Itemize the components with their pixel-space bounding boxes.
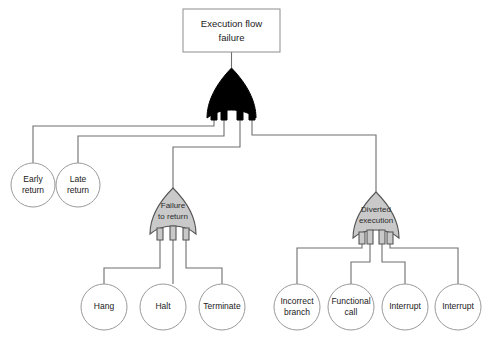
top-event-node[interactable]: Execution flow failure <box>183 9 280 52</box>
diverted-execution-label-line1: Diverted <box>361 205 391 214</box>
top-event-label-line1: Execution flow <box>201 18 262 29</box>
root-or-gate-shape <box>207 68 256 118</box>
diverted-gate-stub-4 <box>387 232 393 244</box>
root-gate-stub-4 <box>249 112 255 120</box>
terminate-label-line1: Terminate <box>203 301 241 311</box>
wire-failure-to-terminate <box>186 238 222 284</box>
failure-gate-stub-2 <box>170 226 176 240</box>
basic-event-interrupt-1[interactable]: Interrupt <box>382 284 428 330</box>
diverted-gate-stub-3 <box>379 230 385 244</box>
basic-event-halt[interactable]: Halt <box>140 284 186 330</box>
basic-event-terminate[interactable]: Terminate <box>199 284 245 330</box>
wire-diverted-to-interrupt-2 <box>390 242 458 284</box>
failure-to-return-gate[interactable]: Failure to return <box>150 188 196 240</box>
basic-event-hang[interactable]: Hang <box>81 284 127 330</box>
fault-tree-diagram: Execution flow failure Early return Late… <box>0 0 490 340</box>
late-return-label-line2: return <box>67 185 89 195</box>
top-event-label-line2: failure <box>219 32 245 43</box>
failure-gate-stub-1 <box>157 228 163 240</box>
failure-to-return-label-line1: Failure <box>161 201 186 210</box>
functional-call-label-line2: call <box>345 307 358 317</box>
incorrect-branch-label-line2: branch <box>284 307 310 317</box>
diverted-execution-label-line2: execution <box>359 216 393 225</box>
functional-call-label-line1: Functional <box>331 296 370 306</box>
diverted-execution-gate[interactable]: Diverted execution <box>353 192 399 244</box>
root-gate-stub-2 <box>221 110 227 120</box>
diverted-gate-stub-2 <box>367 230 373 244</box>
diverted-gate-stub-1 <box>359 232 365 244</box>
late-return-label-line1: Late <box>70 174 87 184</box>
hang-label-line1: Hang <box>94 301 115 311</box>
early-return-label-line2: return <box>22 185 44 195</box>
basic-event-late-return[interactable]: Late return <box>56 163 100 207</box>
wire-root-to-diverted-execution <box>252 118 376 192</box>
interrupt-1-label-line1: Interrupt <box>389 301 421 311</box>
wire-diverted-to-incorrect-branch <box>297 242 362 284</box>
basic-event-interrupt-2[interactable]: Interrupt <box>435 284 481 330</box>
basic-event-incorrect-branch[interactable]: Incorrect branch <box>274 284 320 330</box>
failure-gate-stub-3 <box>183 228 189 240</box>
root-gate-stub-1 <box>211 112 217 120</box>
wire-failure-to-hang <box>104 238 160 284</box>
basic-event-early-return[interactable]: Early return <box>11 163 55 207</box>
top-event-box <box>183 9 280 52</box>
wire-root-to-failure-to-return <box>173 118 240 188</box>
basic-event-functional-call[interactable]: Functional call <box>328 284 374 330</box>
root-or-gate[interactable] <box>207 68 256 120</box>
interrupt-2-label-line1: Interrupt <box>442 301 474 311</box>
halt-label-line1: Halt <box>155 301 171 311</box>
fault-tree-svg: Execution flow failure Early return Late… <box>0 0 490 340</box>
wire-root-to-early-return <box>33 118 214 163</box>
diverted-execution-gate-shape <box>353 192 399 238</box>
early-return-label-line1: Early <box>23 174 43 184</box>
failure-to-return-label-line2: to return <box>158 212 188 221</box>
wire-root-to-late-return <box>78 118 224 163</box>
root-gate-stub-3 <box>237 110 243 120</box>
incorrect-branch-label-line1: Incorrect <box>280 296 314 306</box>
